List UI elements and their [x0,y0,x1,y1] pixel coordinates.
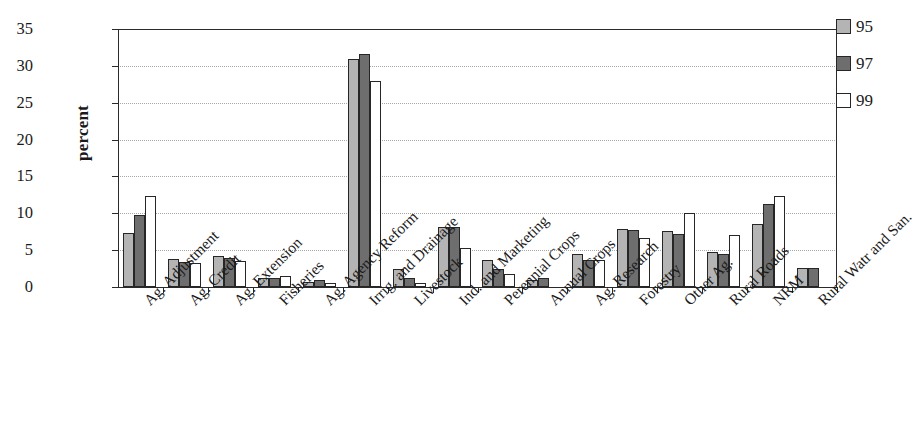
bar-group [662,29,695,287]
axis-left [118,29,119,287]
plot-area [118,29,837,287]
bar-group [123,29,156,287]
bar [808,268,819,287]
bar-group [438,29,471,287]
bar [684,213,695,287]
y-axis-tick-label: 10 [0,205,33,222]
y-axis-tick-label: 25 [0,95,33,112]
bar [314,280,325,287]
legend-label: 97 [856,53,873,74]
bar [134,215,145,287]
y-axis-tick-label: 15 [0,168,33,185]
bar-group [797,29,830,287]
y-axis-tick-label: 5 [0,242,33,259]
bar [348,59,359,287]
bar-group [707,29,740,287]
legend-label: 99 [856,90,873,111]
legend-label: 95 [856,16,873,37]
bar [123,233,134,287]
y-axis-tick-label: 30 [0,58,33,75]
bar [145,196,156,287]
legend-swatch [836,19,851,34]
legend-swatch [836,93,851,108]
bar-group [213,29,246,287]
legend-swatch [836,56,851,71]
bar-group [303,29,336,287]
y-axis-tick-label: 20 [0,132,33,149]
y-axis-title: percent [73,63,103,203]
y-axis-tick-label: 35 [0,21,33,38]
y-axis-tick-label: 0 [0,279,33,296]
